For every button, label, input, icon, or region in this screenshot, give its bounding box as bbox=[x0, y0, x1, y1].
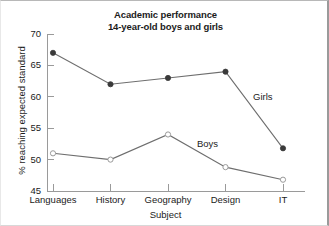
data-point-boys-3 bbox=[223, 165, 228, 170]
series-label-girls: Girls bbox=[253, 91, 273, 102]
chart-figure: Academic performance 14-year-old boys an… bbox=[0, 0, 329, 226]
data-point-boys-1 bbox=[108, 157, 113, 162]
data-point-boys-0 bbox=[50, 151, 55, 156]
y-tick-label: 70 bbox=[19, 28, 41, 39]
data-point-girls-1 bbox=[108, 82, 113, 87]
series-line-boys bbox=[53, 134, 283, 179]
y-tick-label: 55 bbox=[19, 122, 41, 133]
x-tick-label-it: IT bbox=[279, 194, 287, 205]
data-point-girls-3 bbox=[223, 69, 228, 74]
data-point-girls-4 bbox=[280, 146, 285, 151]
y-tick-label: 65 bbox=[19, 59, 41, 70]
x-tick-label-geography: Geography bbox=[144, 194, 191, 205]
x-tick-label-languages: Languages bbox=[29, 194, 76, 205]
y-tick-label: 50 bbox=[19, 154, 41, 165]
series-label-boys: Boys bbox=[197, 138, 218, 149]
plot-area bbox=[1, 1, 329, 226]
axes bbox=[47, 34, 305, 191]
data-point-girls-0 bbox=[50, 50, 55, 55]
y-tick-label: 60 bbox=[19, 91, 41, 102]
data-point-boys-2 bbox=[165, 132, 170, 137]
data-point-girls-2 bbox=[165, 75, 170, 80]
x-tick-label-history: History bbox=[96, 194, 126, 205]
x-tick-label-design: Design bbox=[211, 194, 241, 205]
data-series bbox=[50, 50, 285, 182]
data-point-boys-4 bbox=[280, 177, 285, 182]
